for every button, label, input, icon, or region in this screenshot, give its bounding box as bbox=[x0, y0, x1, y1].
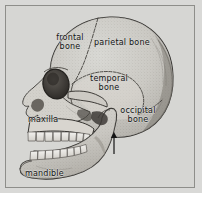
label-occipital-bone: occipital bone bbox=[114, 106, 162, 124]
label-maxilla: maxilla bbox=[28, 115, 70, 124]
figure-plate: frontal bone parietal bone temporal bone… bbox=[0, 0, 202, 193]
label-parietal-bone: parietal bone bbox=[94, 38, 156, 47]
illustration-panel: frontal bone parietal bone temporal bone… bbox=[5, 5, 195, 188]
skull-illustration bbox=[6, 6, 194, 187]
label-mandible: mandible bbox=[25, 169, 75, 178]
bottom-margin bbox=[0, 193, 202, 209]
skull-diagram-figure: frontal bone parietal bone temporal bone… bbox=[0, 0, 202, 209]
label-frontal-bone: frontal bone bbox=[50, 33, 90, 51]
upper-teeth bbox=[28, 132, 90, 142]
orbit-depth bbox=[47, 73, 59, 86]
label-temporal-bone: temporal bone bbox=[85, 74, 133, 92]
